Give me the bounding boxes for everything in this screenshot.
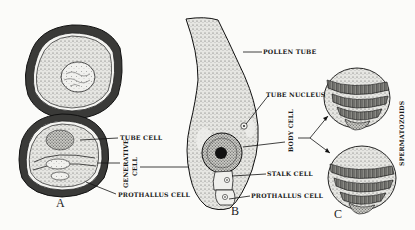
label-spermatozoids: SPERMATOZOIDS [398, 100, 405, 166]
panel-letter-a: A [56, 196, 65, 210]
panel-letter-c: C [334, 207, 342, 221]
arrowheads [323, 116, 330, 153]
spermatozoid-top [324, 68, 390, 130]
label-generative-cell-line1: GENERATIVE [122, 139, 129, 188]
label-prothallus-cell-b: PROTHALLUS CELL [251, 192, 324, 199]
spermatozoid-bottom [328, 146, 396, 214]
pollen-grain-top [25, 25, 122, 119]
label-tube-nucleus: TUBE NUCLEUS [266, 91, 326, 98]
label-body-cell: BODY CELL [287, 109, 294, 152]
label-generative-cell-line2: CELL [131, 156, 138, 176]
pollen-grain-bottom [19, 114, 109, 197]
pollen-tube [186, 18, 258, 210]
label-prothallus-cell-a: PROTHALLUS CELL [118, 191, 191, 198]
label-pollen-tube: POLLEN TUBE [263, 48, 316, 55]
label-stalk-cell: STALK CELL [267, 170, 313, 177]
panel-letter-b: B [231, 204, 239, 218]
pollen-development-diagram: TUBE CELL GENERATIVE CELL PROTHALLUS CEL… [0, 0, 415, 230]
